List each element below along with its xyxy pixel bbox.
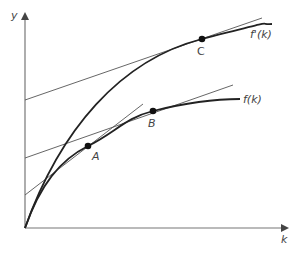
point-b-label: B	[148, 117, 156, 130]
lower-curve	[25, 99, 240, 228]
point-b	[150, 108, 157, 115]
point-a	[85, 143, 92, 150]
tangent-points: ABC	[85, 36, 206, 163]
upper-curve-label: f'(k)	[250, 28, 272, 41]
lower-curve-label: f(k)	[243, 93, 262, 106]
point-c-label: C	[197, 45, 205, 58]
tangent-lines	[25, 18, 262, 195]
x-axis-label: k	[281, 233, 288, 246]
diagram-canvas: y k f'(k)f(k) ABC	[0, 0, 300, 257]
point-c	[199, 36, 206, 43]
y-axis-label: y	[10, 9, 18, 22]
point-a-label: A	[91, 150, 100, 163]
